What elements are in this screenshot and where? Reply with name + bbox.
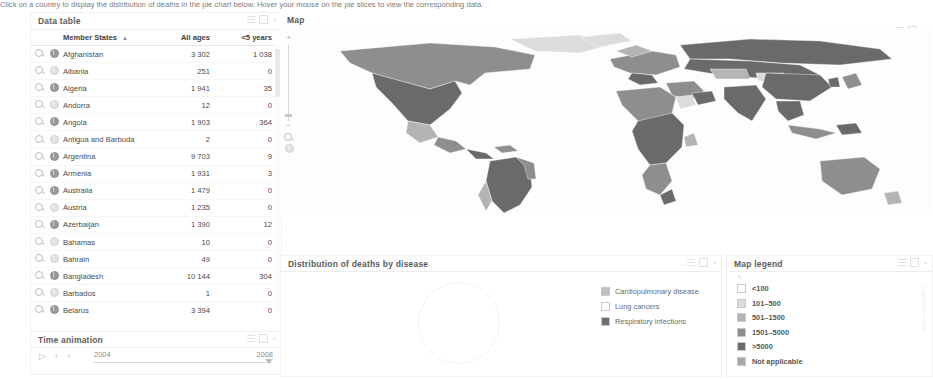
- restore-icon[interactable]: [699, 258, 708, 267]
- row-search-icon[interactable]: [31, 66, 47, 76]
- map-legend-item[interactable]: <100: [737, 284, 803, 293]
- table-row[interactable]: Antigua and Barbuda20: [31, 131, 281, 148]
- table-row[interactable]: Armenia1 9313: [31, 166, 281, 183]
- map-search-icon[interactable]: [284, 133, 292, 143]
- edit-pencil-icon[interactable]: ✎: [737, 274, 744, 281]
- pie-legend-item[interactable]: Respiratory infections: [601, 317, 699, 326]
- table-row[interactable]: Albania2510: [31, 63, 281, 80]
- restore-icon[interactable]: [910, 258, 919, 267]
- row-globe-icon[interactable]: [47, 135, 61, 145]
- under-5-value: 0: [218, 306, 281, 314]
- map-legend-item[interactable]: Not applicable: [737, 357, 803, 366]
- map-zoom-control[interactable]: + −: [283, 34, 294, 152]
- row-search-icon[interactable]: [31, 186, 47, 196]
- time-animation-title: Time animation: [38, 335, 103, 345]
- row-search-icon[interactable]: [31, 169, 47, 179]
- restore-icon[interactable]: [259, 15, 268, 24]
- table-row[interactable]: Belarus3 3940: [31, 302, 281, 314]
- under-5-value: 3: [218, 169, 281, 178]
- time-animation-slider-handle[interactable]: [265, 359, 273, 364]
- table-row[interactable]: Andorra120: [31, 97, 281, 114]
- world-map-canvas[interactable]: [280, 29, 931, 214]
- row-globe-icon[interactable]: [47, 100, 61, 110]
- table-row[interactable]: Algeria1 94135: [31, 80, 281, 97]
- table-row[interactable]: Bangladesh10 144304: [31, 268, 281, 285]
- table-row[interactable]: Argentina9 7039: [31, 149, 281, 166]
- menu-icon[interactable]: [687, 259, 695, 266]
- next-button[interactable]: ›: [67, 351, 70, 361]
- menu-icon[interactable]: [247, 335, 255, 342]
- legend-label: >5000: [752, 342, 773, 351]
- map-zoom-slider-track[interactable]: [288, 45, 289, 121]
- row-search-icon[interactable]: [31, 152, 47, 162]
- previous-button[interactable]: ‹: [55, 351, 58, 361]
- legend-label: 501–1500: [752, 313, 785, 322]
- pie-legend-item[interactable]: Cardiopulmonary disease: [601, 287, 699, 296]
- map-legend-item[interactable]: >5000: [737, 342, 803, 351]
- menu-icon[interactable]: [247, 16, 255, 23]
- restore-icon[interactable]: [259, 334, 268, 343]
- pie-legend-item[interactable]: Lung cancers: [601, 302, 699, 311]
- map-legend-item[interactable]: 501–1500: [737, 313, 803, 322]
- row-search-icon[interactable]: [31, 254, 47, 264]
- row-search-icon[interactable]: [31, 288, 47, 298]
- close-icon[interactable]: ×: [272, 335, 277, 343]
- table-row[interactable]: Barbados10: [31, 285, 281, 302]
- menu-icon[interactable]: [898, 259, 906, 266]
- table-row[interactable]: Angola1 903364: [31, 114, 281, 131]
- map-globe-icon[interactable]: [285, 144, 294, 154]
- table-row[interactable]: Afghanistan3 3021 038: [31, 46, 281, 63]
- row-globe-icon[interactable]: [47, 186, 61, 196]
- map-legend-item[interactable]: 1501–5000: [737, 328, 803, 337]
- row-globe-icon[interactable]: [47, 83, 61, 93]
- map-zoom-in-button[interactable]: +: [283, 34, 294, 42]
- row-globe-icon[interactable]: [47, 288, 61, 298]
- pie-chart-panel: Distribution of deaths by disease × Card…: [280, 255, 722, 377]
- column-header-all-ages[interactable]: All ages: [152, 33, 218, 42]
- row-globe-icon[interactable]: [47, 237, 61, 247]
- table-row[interactable]: Azerbaijan1 39012: [31, 217, 281, 234]
- map-zoom-slider-handle[interactable]: [285, 114, 292, 117]
- table-row[interactable]: Austria1 2350: [31, 200, 281, 217]
- close-icon[interactable]: ×: [712, 259, 717, 267]
- row-search-icon[interactable]: [31, 271, 47, 281]
- pie-chart-graphic[interactable]: [418, 282, 500, 364]
- map-legend-item[interactable]: 101–500: [737, 299, 803, 308]
- row-search-icon[interactable]: [31, 117, 47, 127]
- row-globe-icon[interactable]: [47, 220, 61, 230]
- time-animation-header: Time animation ×: [31, 332, 281, 348]
- row-globe-icon[interactable]: [47, 117, 61, 127]
- under-5-value: 0: [218, 186, 281, 195]
- play-button[interactable]: ▷: [39, 351, 46, 361]
- row-globe-icon[interactable]: [47, 271, 61, 281]
- close-icon[interactable]: ×: [272, 16, 277, 24]
- row-search-icon[interactable]: [31, 305, 47, 314]
- row-search-icon[interactable]: [31, 203, 47, 213]
- row-globe-icon[interactable]: [47, 152, 61, 162]
- column-header-member-states[interactable]: Member States▲: [31, 33, 152, 42]
- row-search-icon[interactable]: [31, 83, 47, 93]
- all-ages-value: 1 390: [152, 220, 218, 229]
- row-globe-icon[interactable]: [47, 254, 61, 264]
- column-header-under-5[interactable]: <5 years: [218, 33, 281, 42]
- row-globe-icon[interactable]: [47, 203, 61, 213]
- map-zoom-out-button[interactable]: −: [283, 122, 294, 130]
- table-row[interactable]: Bahamas100: [31, 234, 281, 251]
- row-search-icon[interactable]: [31, 220, 47, 230]
- row-globe-icon[interactable]: [47, 49, 61, 59]
- row-search-icon[interactable]: [31, 237, 47, 247]
- map-title: Map: [287, 15, 305, 25]
- row-globe-icon[interactable]: [47, 305, 61, 314]
- row-search-icon[interactable]: [31, 49, 47, 59]
- row-globe-icon[interactable]: [47, 169, 61, 179]
- row-search-icon[interactable]: [31, 135, 47, 145]
- legend-swatch: [601, 302, 610, 311]
- row-search-icon[interactable]: [31, 100, 47, 110]
- under-5-value: 12: [218, 220, 281, 229]
- time-animation-slider-track[interactable]: [93, 362, 271, 363]
- table-row[interactable]: Bahrain490: [31, 251, 281, 268]
- row-globe-icon[interactable]: [47, 66, 61, 76]
- member-state-name: Angola: [61, 118, 152, 127]
- table-row[interactable]: Australia1 4790: [31, 183, 281, 200]
- close-icon[interactable]: ×: [923, 259, 928, 267]
